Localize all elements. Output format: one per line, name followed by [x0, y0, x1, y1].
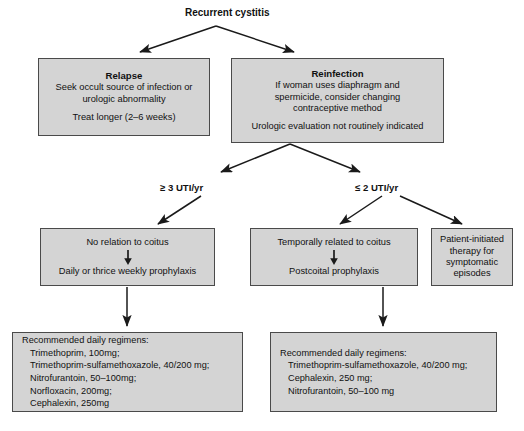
- regimen-left-item-3: Nitrofurantoin, 50–100mg;: [13, 372, 242, 385]
- edge-reinfection-to-low-frequency: [290, 144, 360, 172]
- node-relapse: Relapse Seek occult source of infection …: [38, 58, 210, 136]
- node-reinfection: Reinfection If woman uses diaphragm and …: [231, 58, 444, 143]
- node-patient-initiated-therapy: Patient-initiated therapy for symptomati…: [431, 228, 513, 286]
- edge-root-to-reinfection: [216, 26, 294, 52]
- reinfection-line-1: If woman uses diaphragm and: [275, 80, 400, 91]
- edge-low-frequency-to-temporal-relation: [340, 196, 382, 224]
- regimen-left-item-5: Cephalexin, 250mg: [13, 397, 242, 410]
- regimen-left-item-1: Trimethoprim, 100mg;: [13, 347, 242, 360]
- patient-initiated-line-4: episodes: [453, 268, 490, 279]
- regimen-right-title: Recommended daily regimens:: [271, 347, 496, 360]
- reinfection-line-3: contraceptive method: [293, 103, 382, 114]
- branch-label-low-frequency: ≤ 2 UTI/yr: [355, 182, 398, 193]
- reinfection-heading: Reinfection: [311, 68, 363, 80]
- branch-label-high-frequency: ≥ 3 UTI/yr: [160, 182, 203, 193]
- edge-root-to-relapse: [140, 26, 216, 52]
- no-relation-action: Daily or thrice weekly prophylaxis: [59, 266, 196, 277]
- patient-initiated-line-2: therapy for: [450, 246, 494, 257]
- relapse-line-1: Seek occult source of infection or: [56, 82, 193, 93]
- temporal-relation-condition: Temporally related to coitus: [277, 237, 390, 248]
- node-regimen-daily-prophylaxis: Recommended daily regimens: Trimethoprim…: [12, 332, 243, 412]
- reinfection-line-4: Urologic evaluation not routinely indica…: [251, 121, 423, 132]
- patient-initiated-line-3: symptomatic: [446, 257, 498, 268]
- regimen-right-item-1: Trimethoprim-sulfamethoxazole, 40/200 mg…: [271, 359, 496, 372]
- regimen-left-item-4: Norfloxacin, 200mg;: [13, 385, 242, 398]
- edge-high-frequency-to-no-relation: [158, 196, 201, 224]
- node-regimen-postcoital-prophylaxis: Recommended daily regimens: Trimethoprim…: [270, 332, 497, 412]
- page-title: Recurrent cystitis: [185, 7, 269, 19]
- regimen-right-item-3: Nitrofurantoin, 50–100 mg: [271, 385, 496, 398]
- node-temporally-related-to-coitus: Temporally related to coitus Postcoital …: [250, 228, 418, 286]
- flowchart-canvas: Recurrent cystitis Relapse Seek occult s…: [0, 0, 524, 431]
- inner-arrow-temporal-relation: [251, 249, 417, 266]
- no-relation-condition: No relation to coitus: [86, 237, 168, 248]
- node-no-relation-to-coitus: No relation to coitus Daily or thrice we…: [40, 228, 215, 286]
- regimen-left-title: Recommended daily regimens:: [13, 334, 242, 347]
- relapse-heading: Relapse: [106, 70, 143, 82]
- reinfection-line-2: spermicide, consider changing: [275, 92, 401, 103]
- patient-initiated-line-1: Patient-initiated: [440, 234, 504, 245]
- regimen-left-item-2: Trimethoprim-sulfamethoxazole, 40/200 mg…: [13, 359, 242, 372]
- inner-arrow-no-relation: [41, 249, 214, 266]
- temporal-relation-action: Postcoital prophylaxis: [289, 266, 379, 277]
- edge-reinfection-to-high-frequency: [221, 144, 290, 172]
- edge-low-frequency-to-patient-initiated: [400, 196, 462, 224]
- regimen-right-item-2: Cephalexin, 250 mg;: [271, 372, 496, 385]
- relapse-line-2: urologic abnormality: [82, 94, 165, 105]
- relapse-line-3: Treat longer (2–6 weeks): [72, 112, 175, 123]
